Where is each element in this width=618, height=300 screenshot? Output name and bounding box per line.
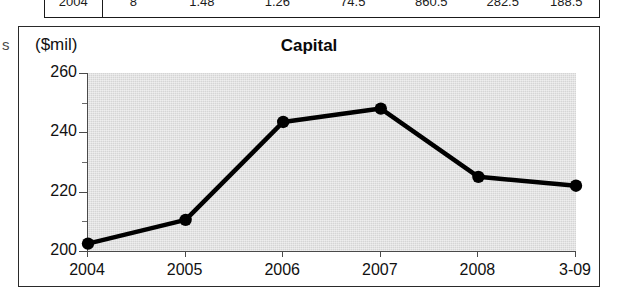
table-cell: 1.48	[164, 0, 239, 17]
data-point-marker	[179, 214, 191, 226]
y-axis-tick-label: 220	[29, 182, 77, 200]
capital-line-chart: ($mil) Capital 200220240260 200420052006…	[18, 26, 600, 287]
margin-partial-glyph: s	[2, 36, 10, 53]
y-axis-tick-label: 260	[29, 63, 77, 81]
y-axis-tick	[79, 132, 87, 133]
table-cell: 8	[103, 0, 165, 17]
x-axis-tick-label: 3-09	[540, 261, 610, 279]
x-axis-tick-label: 2004	[52, 261, 122, 279]
x-axis-tick-label: 2006	[247, 261, 317, 279]
y-axis-tick	[79, 251, 87, 252]
table-cell: 2004	[45, 0, 103, 17]
line-path	[88, 109, 576, 244]
data-point-marker	[82, 237, 94, 249]
y-axis-tick	[79, 192, 87, 193]
data-point-marker	[472, 171, 484, 183]
x-axis-tick-label: 2007	[345, 261, 415, 279]
data-point-marker	[277, 116, 289, 128]
y-axis-tick	[79, 73, 87, 74]
y-axis-tick-label: 200	[29, 241, 77, 259]
table-cell: 74.5	[315, 0, 390, 17]
chart-title: Capital	[19, 36, 599, 56]
table-row: 2004 8 1.48 1.26 74.5 860.5 282.5 188.5	[45, 0, 599, 17]
data-point-marker	[375, 102, 387, 114]
table-cell: 188.5	[533, 0, 599, 17]
table-cell: 860.5	[391, 0, 472, 17]
x-axis-tick-label: 2008	[442, 261, 512, 279]
plot-area	[87, 73, 576, 252]
y-axis-tick-label: 240	[29, 122, 77, 140]
data-series-capital	[88, 73, 576, 251]
table-cell: 282.5	[472, 0, 534, 17]
cut-off-table-row: 2004 8 1.48 1.26 74.5 860.5 282.5 188.5	[44, 0, 600, 18]
x-axis-tick-label: 2005	[150, 261, 220, 279]
data-point-marker	[570, 180, 582, 192]
table-cell: 1.26	[240, 0, 315, 17]
